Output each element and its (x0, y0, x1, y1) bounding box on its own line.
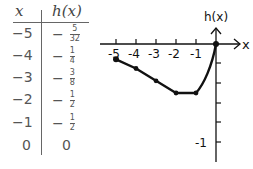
function-graph: x h(x) -5 -4 -3 -2 -1 -1 (0, 0, 253, 169)
x-tick-label: -1 (190, 47, 202, 61)
x-tick-label: -2 (168, 47, 180, 61)
x-ticks (116, 39, 196, 44)
data-point (213, 41, 219, 47)
y-tick-label: -1 (195, 136, 207, 150)
x-axis-label: x (242, 37, 250, 52)
data-point (194, 91, 199, 96)
data-point (134, 66, 139, 71)
x-tick-label: -4 (128, 47, 140, 61)
data-point (113, 56, 119, 62)
y-axis-label: h(x) (204, 10, 228, 24)
data-point (174, 91, 179, 96)
data-point (154, 78, 159, 83)
x-tick-label: -3 (148, 47, 160, 61)
y-ticks (216, 63, 221, 142)
